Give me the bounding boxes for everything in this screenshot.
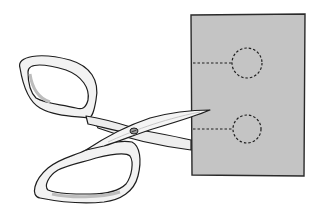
- scissors-paper-illustration: [0, 0, 320, 219]
- paper-sheet: [191, 14, 305, 176]
- scissors-icon: [20, 56, 210, 203]
- illustration-canvas: scissors cutting paper: [0, 0, 320, 219]
